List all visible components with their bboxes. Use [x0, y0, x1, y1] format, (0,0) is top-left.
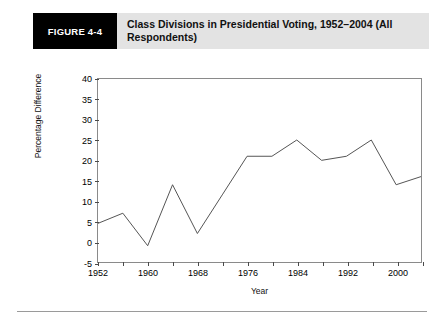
y-axis-tick-mark [95, 181, 99, 182]
x-axis-tick-mark [123, 262, 124, 266]
y-axis-tick-label: 20 [76, 156, 95, 166]
y-axis-tick-mark [95, 222, 99, 223]
y-axis-tick: 40 [76, 74, 98, 84]
x-axis-tick-mark [148, 262, 149, 266]
x-axis-tick-mark [198, 262, 199, 266]
y-axis-tick-mark [95, 140, 99, 141]
x-axis-tick-label: 1960 [138, 268, 158, 278]
x-axis-tick-label: 2000 [388, 268, 408, 278]
figure-title: Class Divisions in Presidential Voting, … [127, 18, 421, 45]
footer-divider [17, 311, 427, 312]
y-axis-tick-label: 0 [76, 238, 95, 248]
y-axis-tick-mark [95, 120, 99, 121]
y-axis-tick: 5 [76, 218, 98, 228]
y-axis-tick-mark [95, 79, 99, 80]
x-axis-tick-mark [348, 262, 349, 266]
y-axis-tick-label: 30 [76, 115, 95, 125]
y-axis-tick-label: 5 [76, 218, 95, 228]
x-axis-tick-label: 1952 [88, 268, 108, 278]
y-axis-tick-label: 25 [76, 136, 95, 146]
y-axis-tick-label: 35 [76, 95, 95, 105]
y-axis-tick-label: 40 [76, 74, 95, 84]
y-axis-tick-label: 10 [76, 197, 95, 207]
y-axis-tick-mark [95, 243, 99, 244]
x-axis-tick-mark [98, 262, 99, 266]
x-axis-tick-mark [323, 262, 324, 266]
x-axis-tick-mark [173, 262, 174, 266]
figure-title-band: Class Divisions in Presidential Voting, … [117, 13, 429, 49]
line-chart: Percentage Difference 4035302520151050-5… [0, 55, 442, 300]
x-axis-tick-mark [248, 262, 249, 266]
x-axis-tick-mark [423, 262, 424, 266]
y-axis-tick: 15 [76, 177, 98, 187]
y-axis-tick: 35 [76, 95, 98, 105]
figure-number-box: FIGURE 4-4 [33, 13, 117, 49]
x-axis-tick-mark [398, 262, 399, 266]
y-axis-tick-mark [95, 202, 99, 203]
y-axis-tick: 0 [76, 238, 98, 248]
figure-header: FIGURE 4-4 Class Divisions in Presidenti… [33, 13, 429, 49]
y-axis-tick: 25 [76, 136, 98, 146]
y-axis-label: Percentage Difference [33, 56, 43, 176]
x-axis-tick-label: 1992 [338, 268, 358, 278]
x-axis-tick-mark [273, 262, 274, 266]
x-axis-tick-label: 1984 [288, 268, 308, 278]
y-axis-tick-mark [95, 161, 99, 162]
x-axis-tick-label: 1968 [188, 268, 208, 278]
y-axis-tick: 20 [76, 156, 98, 166]
x-axis-tick-label: 1976 [238, 268, 258, 278]
x-axis-tick-mark [373, 262, 374, 266]
y-axis-tick: 10 [76, 197, 98, 207]
plot-frame: 4035302520151050-51952196019681976198419… [97, 78, 422, 263]
x-axis-tick-mark [223, 262, 224, 266]
x-axis-tick-mark [298, 262, 299, 266]
figure-number-label: FIGURE 4-4 [48, 26, 102, 37]
plot-series-svg [98, 79, 421, 262]
y-axis-tick-label: 15 [76, 177, 95, 187]
series-line-percentage-difference [98, 140, 421, 246]
y-axis-tick-mark [95, 99, 99, 100]
x-axis-label: Year [97, 286, 422, 296]
y-axis-tick: 30 [76, 115, 98, 125]
